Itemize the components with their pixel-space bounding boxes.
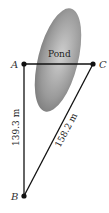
length-ab: 139.3 m — [11, 108, 21, 146]
point-b — [21, 193, 26, 198]
pond-label: Pond — [48, 49, 71, 59]
label-c: C — [99, 59, 107, 70]
length-bc: 158.2 m — [53, 111, 79, 149]
point-c — [90, 61, 95, 66]
label-b: B — [10, 191, 18, 202]
pond-diagram: Pond A C B 139.3 m 158.2 m — [0, 0, 109, 213]
point-a — [21, 61, 26, 66]
label-a: A — [10, 59, 18, 70]
pond-shape — [26, 4, 90, 117]
